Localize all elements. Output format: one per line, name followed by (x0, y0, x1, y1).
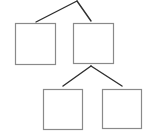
edge-root-to-right-node (77, 1, 91, 21)
node-top-left (16, 24, 56, 65)
edge-right-node-to-bottom-right (91, 66, 122, 86)
tree-diagram (0, 0, 150, 137)
node-bottom-right (103, 90, 142, 129)
node-bottom-left (44, 90, 83, 130)
nodes (16, 24, 142, 130)
edge-root-to-left-node (36, 1, 77, 22)
edge-right-node-to-bottom-left (63, 66, 91, 86)
node-top-right (74, 24, 114, 64)
